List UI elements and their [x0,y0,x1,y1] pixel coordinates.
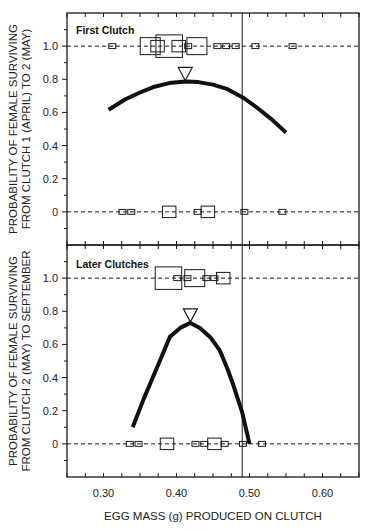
y-tick-label: 0.8 [43,73,58,85]
optimum-triangle-icon [183,309,197,322]
top-ylabel-line2: FROM CLUTCH 1 (APRIL) TO 2 (MAY) [20,29,32,230]
y-tick-label: 0.6 [43,338,58,350]
plot-frame [67,13,359,245]
y-tick-label: 0.2 [43,173,58,185]
x-axis: 0.300.400.500.60 [93,487,333,499]
top-panel-first-clutch: 00.20.40.60.81.0 [43,13,359,245]
x-tick-label: 0.50 [239,487,260,499]
y-tick-label: 1.0 [43,272,58,284]
plot-frame [67,245,359,477]
top-ylabel-line1: PROBABILITY OF FEMALE SURVIVING [7,24,19,234]
y-tick-label: 0.6 [43,106,58,118]
y-tick-label: 0.8 [43,305,58,317]
y-tick-label: 0.4 [43,372,58,384]
y-tick-label: 1.0 [43,40,58,52]
bottom-panel-later-clutches: 00.20.40.60.81.0 [43,245,359,477]
x-tick-label: 0.60 [312,487,333,499]
bottom-ylabel-line1: PROBABILITY OF FEMALE SURVIVING [7,256,19,466]
figure: 00.20.40.60.81.0 00.20.40.60.81.0 0.300.… [0,0,366,530]
fitted-survival-curve [109,81,286,132]
y-tick-label: 0 [52,206,58,218]
panel-title-later-clutches: Later Clutches [76,258,149,270]
optimum-triangle-icon [178,67,192,80]
x-axis-title: EGG MASS (g) PRODUCED ON CLUTCH [104,510,322,522]
x-tick-label: 0.40 [166,487,187,499]
fitted-survival-curve [133,323,250,444]
egg-mass-survival-chart: 00.20.40.60.81.0 00.20.40.60.81.0 0.300.… [0,0,366,530]
bottom-ylabel-line2: FROM CLUTCH 2 (MAY) TO SEPTEMBER [20,250,32,471]
y-tick-label: 0.4 [43,140,58,152]
y-tick-label: 0.2 [43,405,58,417]
y-tick-label: 0 [52,438,58,450]
panel-title-first-clutch: First Clutch [76,24,134,36]
x-tick-label: 0.30 [93,487,114,499]
